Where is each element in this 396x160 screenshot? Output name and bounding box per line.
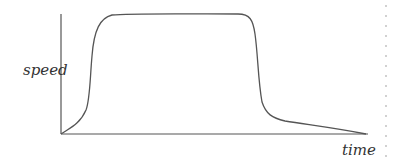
speed-time-chart: speed time: [0, 0, 396, 160]
speed-curve: [61, 14, 366, 134]
x-axis-label: time: [342, 141, 376, 159]
y-axis-label: speed: [23, 61, 68, 79]
dotted-guide-line: [385, 5, 387, 157]
